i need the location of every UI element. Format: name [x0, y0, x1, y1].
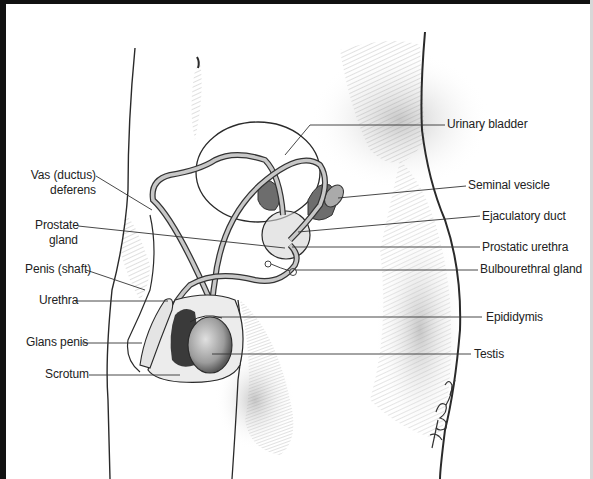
label-vas-deferens-line1: Vas (ductus) [20, 168, 96, 183]
label-seminal-vesicle: Seminal vesicle [468, 178, 550, 193]
label-prostate-gland: Prostate gland [35, 218, 79, 248]
label-penis-shaft: Penis (shaft) [25, 262, 91, 277]
label-vas-deferens: Vas (ductus) deferens [20, 168, 96, 198]
testis-shape [188, 317, 232, 373]
bulbourethral-gland-shape [265, 261, 297, 276]
label-glans-penis: Glans penis [26, 335, 88, 350]
label-urethra: Urethra [39, 293, 78, 308]
label-epididymis: Epididymis [486, 310, 543, 325]
label-prostate-gland-line2: gland [35, 233, 79, 248]
seminal-vesicle-shape [258, 180, 347, 220]
diagram-canvas: Vas (ductus) deferens Prostate gland Pen… [0, 0, 593, 479]
label-bulbourethral-gland: Bulbourethral gland [480, 262, 582, 277]
label-testis: Testis [474, 347, 504, 362]
label-scrotum: Scrotum [45, 367, 89, 382]
urinary-bladder-shape [196, 122, 320, 222]
label-prostatic-urethra: Prostatic urethra [482, 240, 568, 255]
label-ejaculatory-duct: Ejaculatory duct [482, 209, 566, 224]
label-vas-deferens-line2: deferens [20, 183, 96, 198]
label-prostate-gland-line1: Prostate [35, 218, 79, 233]
label-urinary-bladder: Urinary bladder [447, 117, 528, 132]
prostate-shape [262, 211, 310, 259]
